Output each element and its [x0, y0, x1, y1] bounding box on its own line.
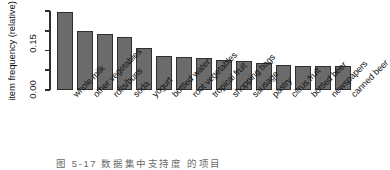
y-axis-tick	[45, 10, 50, 12]
x-axis-labels: whole milkother vegetablesrolls/bunssoda…	[49, 90, 358, 148]
y-tick-label-1: 0.15	[27, 30, 38, 58]
y-axis-label: item frequency (relative)	[6, 0, 20, 102]
y-tick-label-0: 0.00	[27, 76, 38, 104]
y-axis-tick	[45, 50, 50, 52]
figure-caption-text: 图 5-17 数据集中支持度 的项目	[56, 156, 222, 170]
bar	[57, 12, 73, 90]
y-axis-tick	[45, 69, 50, 71]
figure-caption: 图 5-17 数据集中支持度 的项目	[0, 156, 358, 170]
y-axis-tick	[45, 30, 50, 32]
